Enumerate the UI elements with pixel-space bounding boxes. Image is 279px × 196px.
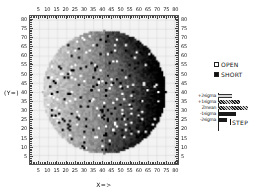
axis-tick: [30, 86, 32, 87]
open-square-icon: [214, 62, 219, 67]
axis-tick: [30, 42, 32, 43]
axis-tick: [30, 97, 32, 98]
axis-tick: [153, 162, 154, 164]
axis-tick: [176, 121, 178, 122]
axis-tick: [30, 46, 33, 47]
axis-tick: [176, 59, 178, 60]
axis-tick: [30, 128, 33, 129]
wafer-map-figure: 5101520253035404550556065707580 51015202…: [0, 0, 279, 196]
axis-tick: [30, 79, 32, 80]
axis-tick: [30, 33, 32, 34]
legend-label-open: OPEN: [221, 61, 238, 68]
axis-tick-label: 35: [181, 98, 192, 103]
axis-tick: [30, 127, 32, 128]
axis-tick-label: 60: [136, 168, 142, 173]
legend-item-short[interactable]: SHORT: [214, 70, 274, 78]
axis-tick: [30, 20, 32, 21]
axis-tick: [30, 138, 33, 139]
x-axis-title: X=>: [96, 182, 111, 187]
axis-tick: [30, 81, 32, 82]
axis-tick: [176, 141, 178, 142]
axis-tick: [30, 152, 32, 153]
axis-tick: [176, 86, 178, 87]
axis-tick: [176, 149, 178, 150]
axis-tick: [175, 156, 178, 157]
axis-tick: [30, 147, 33, 148]
histogram-bar: [218, 118, 227, 122]
axis-tick: [176, 79, 178, 80]
axis-tick: [30, 103, 32, 104]
histogram-bar: [218, 94, 232, 98]
axis-tick-label: 50: [117, 168, 123, 173]
axis-tick: [176, 117, 178, 118]
axis-tick: [176, 63, 178, 64]
axis-tick: [30, 26, 32, 27]
axis-tick: [176, 52, 178, 53]
axis-tick-label: 5: [16, 153, 27, 158]
axis-tick: [176, 150, 178, 151]
axis-tick: [176, 95, 178, 96]
axis-tick: [176, 22, 178, 23]
axis-tick: [30, 72, 32, 73]
axis-tick: [102, 161, 103, 164]
axis-tick: [176, 88, 178, 89]
axis-tick-label: 25: [181, 117, 192, 122]
axis-tick: [30, 53, 32, 54]
axis-tick: [30, 22, 32, 23]
axis-tick-label: 30: [81, 168, 87, 173]
axis-tick: [176, 112, 178, 113]
axis-tick-label: 15: [53, 7, 59, 12]
axis-tick-label: 75: [181, 25, 192, 30]
axis-tick: [176, 68, 178, 69]
axis-tick: [30, 17, 32, 18]
axis-tick: [176, 154, 178, 155]
axis-tick: [175, 74, 178, 75]
axis-tick: [176, 161, 178, 162]
axis-tick: [30, 110, 33, 111]
histogram-row-label: Zmean: [196, 105, 217, 110]
axis-tick: [176, 106, 178, 107]
axis-tick: [176, 17, 178, 18]
axis-tick: [30, 123, 32, 124]
axis-tick: [128, 16, 129, 18]
wafer-plot-area[interactable]: [29, 15, 179, 165]
legend-item-open[interactable]: OPEN: [214, 60, 274, 68]
filled-square-icon: [214, 72, 219, 77]
wafer-heatmap-canvas: [30, 16, 178, 164]
axis-tick: [176, 30, 178, 31]
axis-tick: [176, 53, 178, 54]
axis-tick: [30, 75, 32, 76]
axis-tick: [176, 143, 178, 144]
axis-tick: [30, 24, 32, 25]
axis-tick: [30, 101, 33, 102]
step-tick-icon: [230, 119, 231, 125]
axis-tick-label: 10: [16, 144, 27, 149]
axis-tick: [30, 44, 32, 45]
axis-tick: [176, 103, 178, 104]
axis-tick: [175, 28, 178, 29]
axis-tick: [176, 31, 178, 32]
axis-tick: [175, 110, 178, 111]
axis-tick: [176, 77, 178, 78]
axis-tick: [176, 50, 178, 51]
axis-tick: [176, 26, 178, 27]
axis-tick: [153, 16, 154, 18]
axis-tick-label: 50: [181, 71, 192, 76]
axis-tick: [30, 130, 32, 131]
sigma-histogram[interactable]: +2sigma+1sigmaZmean-1sigma-2sigma STEP: [196, 93, 276, 133]
axis-tick: [30, 141, 32, 142]
axis-tick: [30, 125, 32, 126]
axis-tick-label: 60: [16, 53, 27, 58]
axis-tick: [30, 19, 33, 20]
axis-tick: [30, 160, 32, 161]
axis-tick-label: 40: [99, 7, 105, 12]
axis-tick-label: 25: [72, 168, 78, 173]
axis-tick-label: 5: [37, 7, 40, 12]
axis-tick: [30, 48, 32, 49]
axis-tick-label: 20: [16, 126, 27, 131]
axis-tick: [30, 108, 32, 109]
axis-tick: [30, 106, 32, 107]
axis-tick: [30, 145, 32, 146]
axis-tick: [176, 24, 178, 25]
axis-tick: [176, 90, 178, 91]
